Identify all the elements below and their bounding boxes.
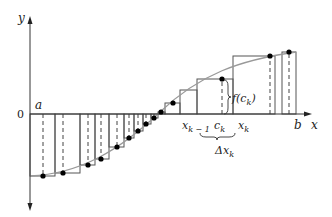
b-label: b [294,118,302,132]
f-ck-label: f(ck) [231,92,256,107]
x-k-label: xk [238,119,249,134]
x-k-minus-1-label: xk − 1 [182,119,210,134]
delta-xk-brace [200,133,235,140]
a-label: a [35,98,42,112]
c-k-label: ck [214,119,225,134]
negative-rectangles [30,114,158,176]
f-ck-brace [224,80,231,114]
positive-rectangles [158,52,296,114]
delta-xk-label: Δxk [214,144,234,159]
x-axis-label: x [311,118,318,132]
riemann-sum-diagram: y 0 a b x xk − 1 ck xk f(ck) Δxk [0,0,332,217]
y-axis-label: y [17,11,25,25]
origin-label: 0 [17,108,24,121]
axes [30,22,306,205]
y-axis-arrow-up-icon [28,16,33,24]
y-axis-arrow-down-icon [28,203,33,211]
x-axis-arrow-icon [304,112,312,117]
